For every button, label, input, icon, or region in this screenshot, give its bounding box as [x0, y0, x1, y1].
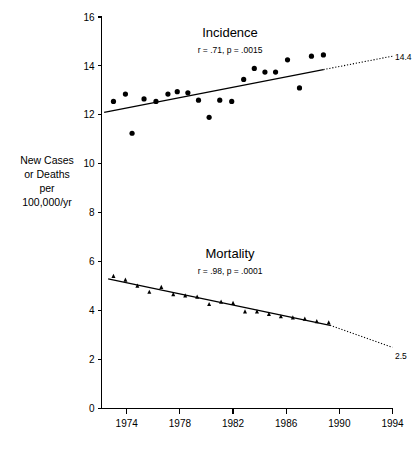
- incidence-data-point: [129, 131, 134, 136]
- y-tick-label: 12: [83, 109, 95, 120]
- y-axis-caption-line-1: New Cases: [20, 154, 74, 166]
- mortality-data-point: [207, 302, 211, 306]
- incidence-regression-line: [104, 70, 323, 113]
- x-axis-ticks: 197419781982198619901994: [116, 409, 404, 429]
- incidence-extrapolation-line: [323, 56, 392, 69]
- incidence-annotation-group: Incidence r = .71, p = .0015 14.4: [198, 25, 412, 62]
- incidence-data-point: [141, 96, 146, 101]
- incidence-endpoint-label: 14.4: [395, 52, 412, 62]
- incidence-data-point: [262, 69, 267, 74]
- y-tick-label: 14: [83, 61, 95, 72]
- incidence-data-point: [297, 85, 302, 90]
- y-tick-label: 16: [83, 12, 95, 23]
- incidence-data-point: [185, 90, 190, 95]
- incidence-data-point: [207, 115, 212, 120]
- mortality-extrapolation-line: [330, 325, 392, 347]
- mortality-data-point: [123, 277, 127, 281]
- y-tick-label: 10: [83, 158, 95, 169]
- mortality-series-title: Mortality: [205, 246, 255, 261]
- mortality-series-stats: r = .98, p = .0001: [198, 266, 263, 276]
- mortality-data-point: [159, 285, 163, 289]
- mortality-fit-line: [108, 279, 392, 348]
- chart-axes: [102, 17, 393, 409]
- x-tick-label: 1974: [116, 418, 139, 429]
- incidence-mortality-chart: 0246810121416 197419781982198619901994 N…: [0, 0, 418, 450]
- mortality-data-point: [315, 319, 319, 323]
- y-axis-ticks: 0246810121416: [83, 12, 101, 415]
- incidence-data-point: [123, 91, 128, 96]
- x-tick-label: 1990: [328, 418, 351, 429]
- incidence-data-point: [273, 69, 278, 74]
- incidence-series-stats: r = .71, p = .0015: [198, 45, 263, 55]
- incidence-data-point: [241, 77, 246, 82]
- mortality-data-point: [303, 317, 307, 321]
- mortality-endpoint-label: 2.5: [395, 351, 407, 361]
- x-tick-label: 1982: [222, 418, 245, 429]
- y-axis-caption-line-3: per: [39, 182, 55, 194]
- y-tick-label: 4: [89, 305, 95, 316]
- mortality-data-point: [327, 320, 331, 324]
- chart-figure: 0246810121416 197419781982198619901994 N…: [0, 0, 418, 450]
- incidence-data-point: [175, 89, 180, 94]
- y-axis-caption-line-2: or Deaths: [24, 168, 70, 180]
- incidence-data-point: [196, 98, 201, 103]
- incidence-data-point: [229, 99, 234, 104]
- incidence-data-point: [153, 99, 158, 104]
- y-axis-caption-line-4: 100,000/yr: [22, 196, 72, 208]
- y-tick-label: 8: [89, 207, 95, 218]
- y-axis-caption: New Cases or Deaths per 100,000/yr: [20, 154, 74, 208]
- incidence-series-title: Incidence: [202, 25, 258, 40]
- mortality-regression-line: [108, 279, 330, 325]
- incidence-data-point: [309, 54, 314, 59]
- incidence-data-point: [111, 99, 116, 104]
- x-tick-label: 1978: [169, 418, 192, 429]
- mortality-data-point: [243, 309, 247, 313]
- incidence-data-point: [165, 91, 170, 96]
- mortality-data-point: [111, 274, 115, 278]
- incidence-fit-line: [104, 56, 392, 112]
- incidence-data-point: [321, 52, 326, 57]
- incidence-data-point: [252, 66, 257, 71]
- mortality-data-points: [111, 274, 330, 325]
- incidence-data-points: [111, 52, 326, 135]
- incidence-data-point: [285, 57, 290, 62]
- x-tick-label: 1986: [275, 418, 298, 429]
- y-tick-label: 2: [89, 354, 95, 365]
- y-tick-label: 0: [89, 403, 95, 414]
- x-tick-label: 1994: [381, 418, 404, 429]
- incidence-data-point: [217, 98, 222, 103]
- mortality-data-point: [231, 301, 235, 305]
- mortality-data-point: [147, 290, 151, 294]
- y-tick-label: 6: [89, 256, 95, 267]
